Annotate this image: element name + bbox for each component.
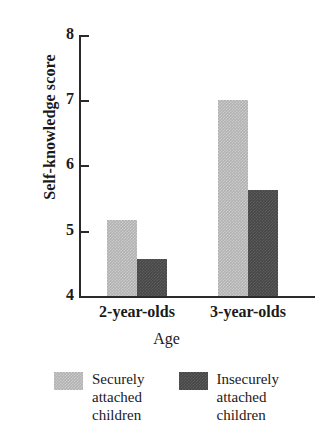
legend-label-insecurely: Insecurely attached children — [217, 370, 279, 424]
y-tick-label-4: 4 — [52, 285, 74, 305]
x-axis-line — [79, 296, 315, 298]
y-tick-7: 7 — [81, 100, 89, 102]
bar-chart-figure: Self-knowledge score 8 7 6 5 4 2-year-ol… — [0, 0, 333, 446]
legend-item-securely: Securely attached children — [54, 370, 144, 424]
legend-swatch-insecurely — [179, 372, 208, 390]
bar-insecurely-2-year-olds — [137, 259, 167, 296]
bar-securely-2-year-olds — [107, 220, 137, 296]
legend-item-insecurely: Insecurely attached children — [179, 370, 279, 424]
y-tick-8: 8 — [81, 35, 89, 37]
x-tick-label-3-year-olds: 3-year-olds — [198, 303, 298, 321]
y-tick-label-5: 5 — [52, 220, 74, 240]
x-tick-label-2-year-olds: 2-year-olds — [87, 303, 187, 321]
legend-label-securely: Securely attached children — [92, 370, 144, 424]
y-tick-5: 5 — [81, 231, 89, 233]
y-tick-label-6: 6 — [52, 154, 74, 174]
plot-area: 8 7 6 5 4 2-year-olds 3-year-olds — [79, 35, 315, 298]
y-tick-label-8: 8 — [52, 24, 74, 44]
bar-insecurely-3-year-olds — [248, 190, 278, 296]
y-tick-label-7: 7 — [52, 89, 74, 109]
y-tick-6: 6 — [81, 165, 89, 167]
legend-swatch-securely — [54, 372, 83, 390]
x-axis-title: Age — [0, 330, 333, 348]
bar-securely-3-year-olds — [218, 100, 248, 296]
chart-legend: Securely attached children Insecurely at… — [0, 370, 333, 424]
